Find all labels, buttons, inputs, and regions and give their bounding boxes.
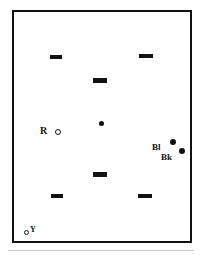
dash-bottom-right-mark — [138, 194, 152, 198]
circle-red-marker — [55, 129, 61, 135]
label-black: Bk — [161, 153, 172, 162]
dash-top-right-mark — [139, 54, 153, 58]
figure-page: R Bl Bk Y — [0, 0, 203, 255]
dot-blue-marker — [170, 139, 176, 145]
dash-top-left-mark — [50, 55, 62, 59]
label-blue: Bl — [152, 143, 161, 152]
dot-center-marker — [99, 121, 104, 126]
dash-bottom-left-mark — [51, 194, 63, 198]
bottom-divider-rule — [8, 250, 194, 251]
circle-yellow-marker — [24, 230, 29, 235]
label-yellow: Y — [30, 226, 36, 234]
label-red: R — [40, 126, 47, 136]
dash-upper-center-mark — [93, 78, 107, 83]
figure-frame: R Bl Bk Y — [12, 10, 192, 243]
dot-black-marker — [179, 148, 185, 154]
dash-lower-center-mark — [93, 172, 107, 177]
